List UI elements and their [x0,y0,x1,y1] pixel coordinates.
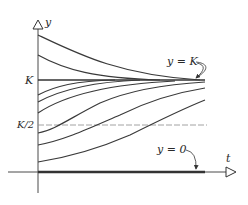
solution-curve [38,81,175,113]
y-axis-label: y [44,16,52,29]
y-axis: y [33,16,52,193]
y-axis-arrow-icon [33,20,43,29]
logistic-diagram: y t K/2 K y = K y = 0 [0,0,248,205]
solution-curve [38,88,205,145]
annotation-y-equals-k: y = K [166,55,207,78]
half-k-label: K/2 [16,119,34,130]
solution-curve [38,55,160,80]
k-label: K [24,74,34,87]
solution-curve [38,80,140,102]
arrow-icon [186,150,196,169]
t-axis-label: t [226,152,231,165]
annotation-y-equals-zero: y = 0 [156,143,196,169]
t-axis-arrow-icon [226,167,236,177]
svg-text:y = 0: y = 0 [156,143,186,156]
svg-text:y = K: y = K [166,55,198,68]
